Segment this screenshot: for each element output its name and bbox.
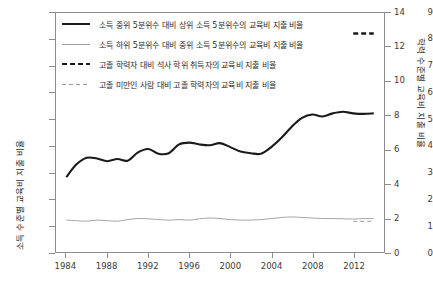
legend-swatch-icon [62, 59, 90, 69]
legend-item-label: 고졸 학력자 대비 석사 학위 취득자의 교육비 지출 비율 [99, 59, 276, 70]
y-right-tick [385, 12, 391, 13]
y-left-tick [49, 146, 55, 147]
y-right-tick [385, 184, 391, 185]
legend-swatch-icon [62, 39, 90, 49]
y-left-tick-label: 6 [391, 87, 433, 97]
y-right-tick-label: 2 [394, 213, 399, 223]
y-left-tick [49, 12, 55, 13]
x-tick-label: 2004 [252, 261, 292, 271]
x-tick-label: 1996 [169, 261, 209, 271]
series-line-1 [66, 217, 374, 221]
x-tick-label: 1992 [128, 261, 168, 271]
legend-item-3[interactable]: 고졸 미만인 사람 대비 고졸 학력자의 교육비 지출 비율 [62, 74, 362, 94]
x-tick [272, 253, 273, 258]
y-right-tick [385, 150, 391, 151]
legend-swatch-icon [62, 19, 90, 29]
y-left-tick [49, 39, 55, 40]
x-tick [189, 253, 190, 258]
y-left-tick-label: 7 [391, 60, 433, 70]
y-left-tick [49, 66, 55, 67]
legend-item-label: 소득 하위 5분위수 대비 중위 소득 5분위수의 교육비 지출 비율 [99, 39, 304, 50]
y-right-tick-label: 12 [394, 41, 405, 51]
y-right-tick-label: 8 [394, 110, 399, 120]
legend-item-1[interactable]: 소득 하위 5분위수 대비 중위 소득 5분위수의 교육비 지출 비율 [62, 34, 362, 54]
y-right-tick-label: 0 [394, 248, 399, 258]
x-tick-label: 1988 [87, 261, 127, 271]
legend-swatch-icon [62, 79, 90, 89]
chart-legend: 소득 중위 5분위수 대비 상위 소득 5분위수의 교육비 지출 비율소득 하위… [62, 14, 362, 94]
y-right-tick [385, 46, 391, 47]
y-left-tick [49, 92, 55, 93]
x-tick [148, 253, 149, 258]
series-line-0 [66, 112, 374, 177]
y-axis-left-title: 소득 수준별 교육비 지출 비율 [13, 140, 25, 250]
y-right-tick [385, 81, 391, 82]
y-left-tick [49, 226, 55, 227]
y-right-tick-label: 6 [394, 144, 399, 154]
legend-item-label: 고졸 미만인 사람 대비 고졸 학력자의 교육비 지출 비율 [99, 79, 276, 90]
y-right-tick [385, 219, 391, 220]
x-tick [230, 253, 231, 258]
x-tick-label: 2012 [334, 261, 374, 271]
chart-figure: 소득 수준별 교육비 지출 비율 학력 수준별 교육비 지출 비율 012345… [0, 0, 433, 288]
legend-item-label: 소득 중위 5분위수 대비 상위 소득 5분위수의 교육비 지출 비율 [99, 19, 304, 30]
x-tick-label: 2008 [293, 261, 333, 271]
y-left-tick [49, 173, 55, 174]
x-tick [65, 253, 66, 258]
y-right-tick [385, 115, 391, 116]
x-tick [354, 253, 355, 258]
x-tick [107, 253, 108, 258]
x-tick-label: 2000 [210, 261, 250, 271]
x-tick-label: 1984 [45, 261, 85, 271]
y-right-tick-label: 4 [394, 179, 399, 189]
legend-item-0[interactable]: 소득 중위 5분위수 대비 상위 소득 5분위수의 교육비 지출 비율 [62, 14, 362, 34]
y-right-tick [385, 253, 391, 254]
y-left-tick-label: 3 [391, 167, 433, 177]
x-tick [313, 253, 314, 258]
y-right-tick-label: 10 [394, 75, 405, 85]
y-left-tick [49, 119, 55, 120]
y-left-tick [49, 253, 55, 254]
legend-item-2[interactable]: 고졸 학력자 대비 석사 학위 취득자의 교육비 지출 비율 [62, 54, 362, 74]
y-right-tick-label: 14 [394, 7, 405, 17]
y-left-tick-label: 2 [391, 194, 433, 204]
y-left-tick [49, 199, 55, 200]
